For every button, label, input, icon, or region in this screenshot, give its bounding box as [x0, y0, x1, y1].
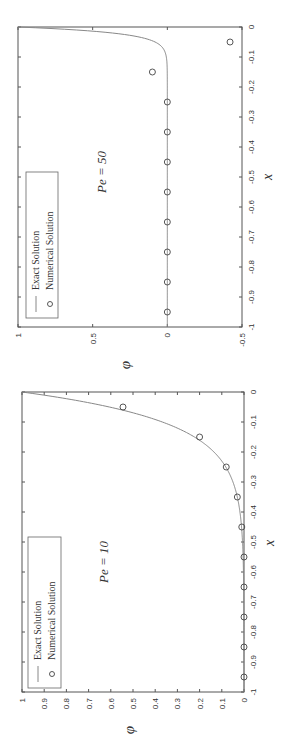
numerical-solution-marker: [120, 404, 126, 410]
x-tick-label: -0.6: [249, 565, 258, 579]
phi-tick-label: 0.6: [107, 697, 116, 709]
phi-tick-label: 0.5: [129, 697, 138, 709]
x-axis-label: x: [262, 539, 277, 547]
phi-tick-label: 0.9: [40, 697, 49, 709]
plot-pe50: -1-0.9-0.8-0.7-0.6-0.5-0.4-0.3-0.2-0.10-…: [14, 24, 275, 369]
phi-tick-label: 1: [18, 697, 27, 702]
x-tick-label: -0.7: [247, 230, 256, 244]
phi-tick-label: 0.4: [151, 697, 160, 709]
phi-tick-label: 1: [14, 332, 23, 337]
pe-annotation: Pe = 10: [96, 541, 111, 584]
phi-tick-label: 0.7: [85, 697, 94, 709]
x-tick-label: -1: [247, 323, 256, 331]
phi-tick-label: 0: [240, 697, 249, 702]
phi-tick-label: 0.3: [173, 697, 182, 709]
phi-tick-label: 0.2: [196, 697, 205, 709]
x-tick-label: -0.3: [249, 475, 258, 489]
pe-annotation: Pe = 50: [94, 151, 109, 194]
x-tick-label: -0.3: [247, 110, 256, 124]
x-tick-label: -0.1: [247, 50, 256, 64]
legend-numerical-label: Numerical Solution: [44, 211, 55, 290]
x-tick-label: -0.9: [249, 655, 258, 669]
x-tick-label: -0.5: [249, 535, 258, 549]
x-tick-label: -0.4: [249, 505, 258, 519]
x-tick-label: -0.5: [247, 170, 256, 184]
x-tick-label: -0.6: [247, 200, 256, 214]
x-tick-label: -0.8: [249, 625, 258, 639]
numerical-solution-marker: [227, 39, 233, 45]
x-tick-label: 0: [249, 389, 258, 394]
legend-numerical-label: Numerical Solution: [46, 581, 57, 660]
phi-axis-label: φ: [121, 726, 137, 734]
x-tick-label: -0.7: [249, 595, 258, 609]
x-tick-label: -0.2: [247, 80, 256, 94]
x-tick-label: -1: [249, 688, 258, 696]
phi-axis-label: φ: [117, 361, 133, 369]
phi-tick-label: -0.5: [238, 332, 247, 346]
phi-tick-label: 0: [163, 332, 172, 337]
legend-exact-label: Exact Solution: [32, 601, 43, 660]
phi-tick-label: 0.8: [62, 697, 71, 709]
numerical-solution-marker: [149, 69, 155, 75]
x-tick-label: -0.1: [249, 415, 258, 429]
x-tick-label: -0.2: [249, 445, 258, 459]
numerical-solution-marker: [197, 434, 203, 440]
x-axis-label: x: [260, 173, 275, 181]
phi-tick-label: 0.1: [218, 697, 227, 709]
x-tick-label: 0: [247, 24, 256, 29]
x-tick-label: -0.4: [247, 140, 256, 154]
phi-tick-label: 0.5: [89, 332, 98, 344]
chart-canvas: -1-0.9-0.8-0.7-0.6-0.5-0.4-0.3-0.2-0.10-…: [0, 0, 285, 755]
x-tick-label: -0.8: [247, 260, 256, 274]
plot-pe10: -1-0.9-0.8-0.7-0.6-0.5-0.4-0.3-0.2-0.100…: [18, 389, 277, 734]
x-tick-label: -0.9: [247, 290, 256, 304]
legend-exact-label: Exact Solution: [30, 231, 41, 290]
